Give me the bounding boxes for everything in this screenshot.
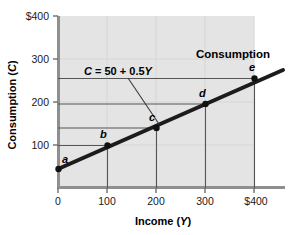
x-tick-label-100: 100 [98,195,116,207]
equation-body-text: = 50 + 0.5 [92,65,145,77]
y-tick-label-400: $400 [26,10,50,22]
x-axis-title-close: ) [187,215,191,227]
point-marker-d [202,101,208,107]
equation-label: C = 50 + 0.5Y [84,65,154,77]
curve-name-label: Consumption [196,48,270,60]
x-tick-label-0: 0 [55,195,61,207]
point-marker-e [251,75,257,81]
y-tick-label-300: 300 [31,53,49,65]
x-tick-label-200: 200 [147,195,165,207]
y-axis-title-main: Consumption ( [6,72,18,150]
point-marker-c [153,125,159,131]
y-tick-label-100: 100 [31,139,49,151]
x-axis-title: Income (Y) [135,215,192,227]
x-axis-title-main: Income ( [135,215,181,227]
point-label-e: e [249,61,255,73]
x-tick-label-300: 300 [196,195,214,207]
point-label-a: a [62,153,68,165]
x-tick-label-400: $400 [244,195,268,207]
point-label-c: c [149,111,155,123]
y-axis-title-close: ) [6,60,18,64]
point-label-d: d [199,87,206,99]
y-tick-label-200: 200 [31,96,49,108]
point-marker-a [55,166,61,172]
point-marker-b [104,142,110,148]
point-label-b: b [100,128,107,140]
consumption-function-chart: C = 50 + 0.5Y Consumption a b c d e $400… [0,0,293,235]
y-axis-title: Consumption (C) [6,60,18,150]
